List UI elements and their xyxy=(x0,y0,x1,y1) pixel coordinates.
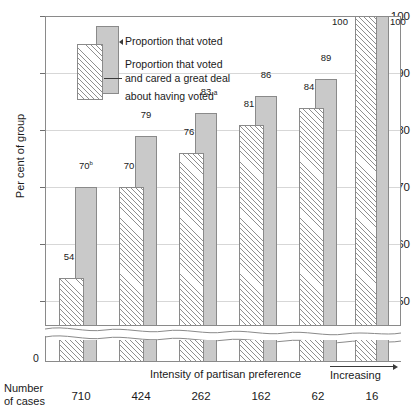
arrow-right-icon xyxy=(393,364,398,370)
base-bar-voted-6 xyxy=(375,340,389,362)
increasing-label: Increasing xyxy=(330,369,381,381)
base-bar-cared-1 xyxy=(59,340,84,362)
base-bar-cared-5 xyxy=(299,340,324,362)
cases-value-3: 262 xyxy=(191,390,210,402)
zero-tick-label: 0 xyxy=(33,352,39,364)
axis-base-strip xyxy=(45,336,401,362)
cases-value-2: 424 xyxy=(131,390,150,402)
cases-value-1: 710 xyxy=(71,390,90,402)
base-bar-cared-4 xyxy=(239,340,264,362)
cases-value-5: 62 xyxy=(312,390,325,402)
increasing-rule xyxy=(330,366,394,367)
base-bar-cared-3 xyxy=(179,340,204,362)
cases-value-6: 16 xyxy=(366,390,379,402)
base-bar-cared-2 xyxy=(119,340,144,362)
base-bar-cared-6 xyxy=(355,340,377,362)
cases-value-4: 162 xyxy=(251,390,270,402)
x-axis-title: Intensity of partisan preference xyxy=(150,368,301,380)
cases-title-line1: Number xyxy=(4,382,43,395)
cases-title-line2: of cases xyxy=(4,395,45,408)
